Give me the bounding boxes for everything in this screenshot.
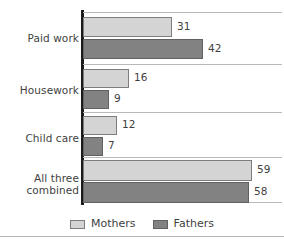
bar-group-child-care: 12 7 [83, 112, 282, 157]
bar-child-care-mothers[interactable] [83, 116, 117, 135]
category-label-text: Child care [25, 132, 79, 144]
bar-value-housework-mothers: 16 [134, 71, 147, 83]
bar-housework-mothers[interactable] [83, 69, 129, 88]
grouped-bar-chart: Paid work Housework Child care All three… [0, 0, 284, 242]
legend-swatch-fathers-icon [153, 220, 168, 229]
bar-housework-fathers[interactable] [83, 90, 109, 109]
category-label-all-three-combined: All three combined [0, 172, 79, 196]
bar-value-all-three-mothers: 59 [257, 163, 270, 175]
bar-value-child-care-fathers: 7 [108, 139, 115, 151]
bar-group-paid-work: 31 42 [83, 12, 282, 64]
bar-paid-work-fathers[interactable] [83, 39, 203, 59]
category-label-child-care: Child care [0, 132, 79, 144]
category-axis: Paid work Housework Child care All three… [0, 12, 79, 203]
legend-item-mothers[interactable]: Mothers [70, 218, 136, 230]
bar-all-three-mothers[interactable] [83, 160, 252, 181]
bar-all-three-fathers[interactable] [83, 182, 249, 203]
bar-child-care-fathers[interactable] [83, 137, 103, 156]
category-label-text-line1: All three [0, 172, 79, 184]
plot-area: 31 42 16 9 12 7 59 58 [83, 12, 282, 203]
bar-value-paid-work-mothers: 31 [177, 20, 190, 32]
bar-value-child-care-mothers: 12 [122, 118, 135, 130]
bar-group-all-three-combined: 59 58 [83, 157, 282, 202]
bar-paid-work-mothers[interactable] [83, 17, 172, 37]
category-label-housework: Housework [0, 84, 79, 96]
category-label-text: Paid work [27, 32, 79, 44]
category-label-text-line2: combined [0, 184, 79, 196]
bottom-divider [0, 236, 284, 237]
bar-group-housework: 16 9 [83, 64, 282, 112]
bar-value-paid-work-fathers: 42 [208, 42, 221, 54]
legend-swatch-mothers-icon [70, 220, 85, 229]
category-label-paid-work: Paid work [0, 32, 79, 44]
bar-value-housework-fathers: 9 [114, 92, 121, 104]
bar-value-all-three-fathers: 58 [254, 185, 267, 197]
category-label-text: Housework [20, 84, 79, 96]
legend-item-fathers[interactable]: Fathers [153, 218, 214, 230]
chart-legend: Mothers Fathers [0, 218, 284, 230]
legend-label-fathers: Fathers [174, 218, 214, 230]
legend-label-mothers: Mothers [91, 218, 136, 230]
